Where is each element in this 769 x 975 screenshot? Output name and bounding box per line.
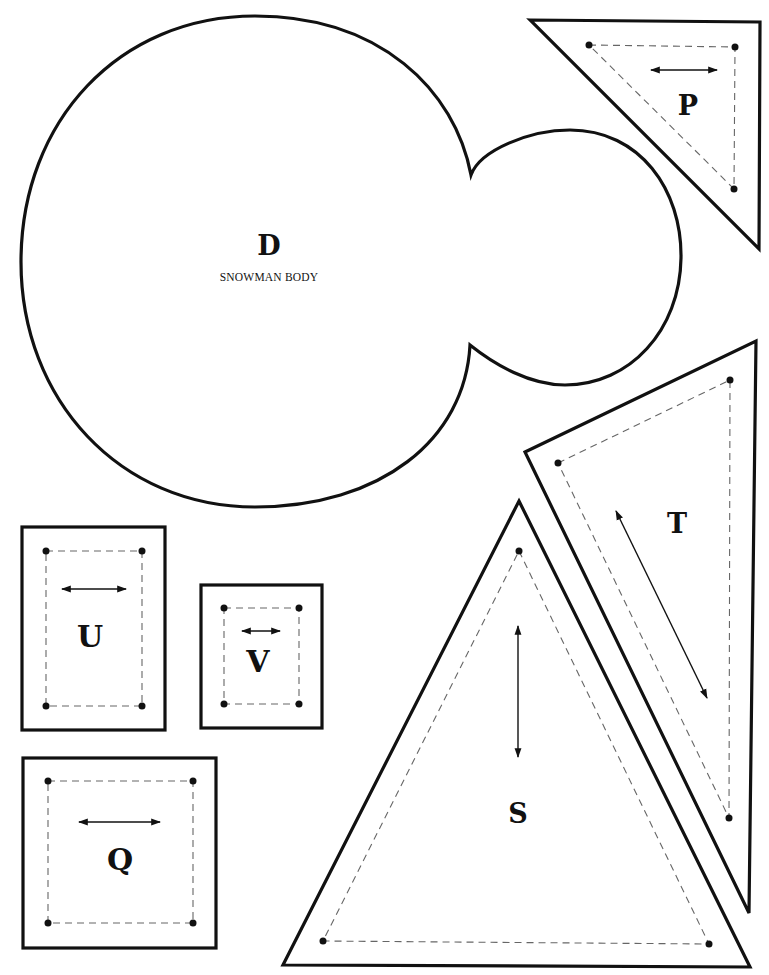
- piece-v: V: [201, 585, 322, 728]
- marker-dot: [190, 778, 197, 785]
- marker-dot: [45, 920, 52, 927]
- piece-d-name: SNOWMAN BODY: [220, 271, 319, 283]
- marker-dot: [139, 548, 146, 555]
- marker-dot: [43, 703, 50, 710]
- piece-d-letter: D: [257, 230, 280, 261]
- marker-dot: [221, 701, 228, 708]
- marker-dot: [221, 605, 228, 612]
- piece-u-letter: U: [77, 619, 103, 654]
- marker-dot: [732, 44, 739, 51]
- marker-dot: [586, 42, 593, 49]
- piece-q-letter: Q: [107, 842, 133, 877]
- marker-dot: [45, 778, 52, 785]
- piece-q: Q: [23, 758, 216, 948]
- marker-dot: [726, 815, 733, 822]
- marker-dot: [727, 377, 734, 384]
- marker-dot: [43, 548, 50, 555]
- marker-dot: [139, 703, 146, 710]
- marker-dot: [731, 186, 738, 193]
- pattern-sheet: D SNOWMAN BODY P T S: [0, 0, 769, 975]
- marker-dot: [296, 605, 303, 612]
- piece-u: U: [22, 527, 165, 730]
- piece-p-letter: P: [678, 90, 698, 121]
- marker-dot: [190, 920, 197, 927]
- marker-dot: [706, 941, 713, 948]
- marker-dot: [320, 938, 327, 945]
- marker-dot: [516, 548, 523, 555]
- marker-dot: [296, 701, 303, 708]
- piece-s-letter: S: [508, 798, 528, 829]
- piece-v-letter: V: [245, 644, 270, 679]
- marker-dot: [555, 460, 562, 467]
- piece-t-letter: T: [667, 508, 687, 539]
